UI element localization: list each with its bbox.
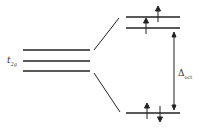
gap-double-arrow-icon <box>172 32 176 110</box>
connector-up <box>94 18 119 50</box>
t2g-label: t2g <box>7 55 17 67</box>
delta-label-sub: oct <box>185 74 193 80</box>
energy-level-diagram <box>0 0 199 129</box>
t2g-label-sub: 2g <box>11 61 17 67</box>
connector-down <box>94 73 120 112</box>
delta-oct-label: Δoct <box>178 68 192 80</box>
